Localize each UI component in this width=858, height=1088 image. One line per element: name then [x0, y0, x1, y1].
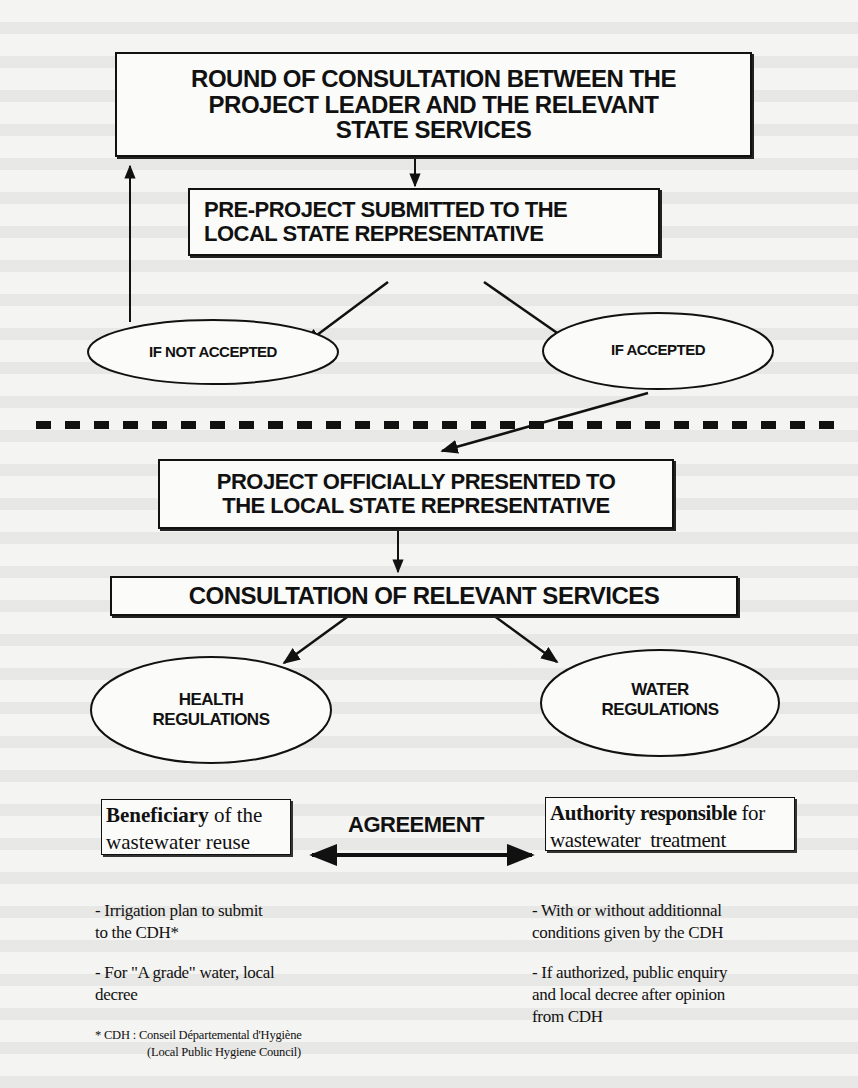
water-line1: WATER: [631, 680, 689, 700]
cdh-footnote: * CDH : Conseil Départemental d'Hygiène …: [95, 1027, 302, 1061]
health-regulations-label: HEALTH REGULATIONS: [95, 670, 327, 750]
note-line: - With or without additionnal: [532, 900, 723, 922]
beneficiary-bold: Beneficiary: [106, 803, 209, 827]
note-line: and local decree after opinion: [532, 984, 727, 1006]
official-line1: PROJECT OFFICIALLY PRESENTED TO: [217, 470, 616, 494]
agreement-label: AGREEMENT: [348, 812, 484, 838]
preproject-line1: PRE-PROJECT SUBMITTED TO THE: [204, 198, 567, 222]
services-consultation-label: CONSULTATION OF RELEVANT SERVICES: [189, 583, 660, 609]
consultation-round-line2: PROJECT LEADER AND THE RELEVANT: [209, 92, 659, 118]
footnote-line2: (Local Public Hygiene Council): [95, 1044, 302, 1061]
beneficiary-note-1: - Irrigation plan to submit to the CDH*: [95, 900, 263, 944]
beneficiary-rest: of the: [209, 803, 263, 827]
note-line: - Irrigation plan to submit: [95, 900, 263, 922]
consultation-round-line3: STATE SERVICES: [336, 117, 532, 143]
authority-box: Authority responsible for wastewater tre…: [545, 797, 795, 851]
note-line: - For "A grade" water, local: [95, 962, 274, 984]
authority-rest: for: [737, 801, 765, 825]
accepted-label: IF ACCEPTED: [545, 315, 771, 385]
preproject-line2: LOCAL STATE REPRESENTATIVE: [204, 222, 543, 246]
authority-note-2: - If authorized, public enquiry and loca…: [532, 962, 727, 1028]
note-line: to the CDH*: [95, 922, 263, 944]
preproject-box: PRE-PROJECT SUBMITTED TO THE LOCAL STATE…: [188, 188, 660, 256]
authority-line2: wastewater treatment: [550, 827, 790, 854]
note-line: conditions given by the CDH: [532, 922, 723, 944]
official-line2: THE LOCAL STATE REPRESENTATIVE: [222, 494, 610, 518]
footnote-line1: * CDH : Conseil Départemental d'Hygiène: [95, 1027, 302, 1044]
beneficiary-line2: wastewater reuse: [106, 829, 286, 856]
beneficiary-note-2: - For "A grade" water, local decree: [95, 962, 274, 1006]
water-line2: REGULATIONS: [602, 700, 719, 720]
water-regulations-label: WATER REGULATIONS: [545, 660, 775, 740]
not-accepted-label: IF NOT ACCEPTED: [90, 322, 336, 382]
authority-bold: Authority responsible: [550, 801, 737, 825]
note-line: decree: [95, 984, 274, 1006]
official-presentation-box: PROJECT OFFICIALLY PRESENTED TO THE LOCA…: [158, 459, 674, 529]
health-line1: HEALTH: [179, 690, 244, 710]
authority-note-1: - With or without additionnal conditions…: [532, 900, 723, 944]
note-line: from CDH: [532, 1006, 727, 1028]
services-consultation-box: CONSULTATION OF RELEVANT SERVICES: [110, 576, 738, 616]
note-line: - If authorized, public enquiry: [532, 962, 727, 984]
consultation-round-box: ROUND OF CONSULTATION BETWEEN THE PROJEC…: [115, 52, 752, 157]
beneficiary-box: Beneficiary of the wastewater reuse: [101, 799, 291, 855]
consultation-round-line1: ROUND OF CONSULTATION BETWEEN THE: [191, 66, 676, 92]
health-line2: REGULATIONS: [153, 710, 270, 730]
